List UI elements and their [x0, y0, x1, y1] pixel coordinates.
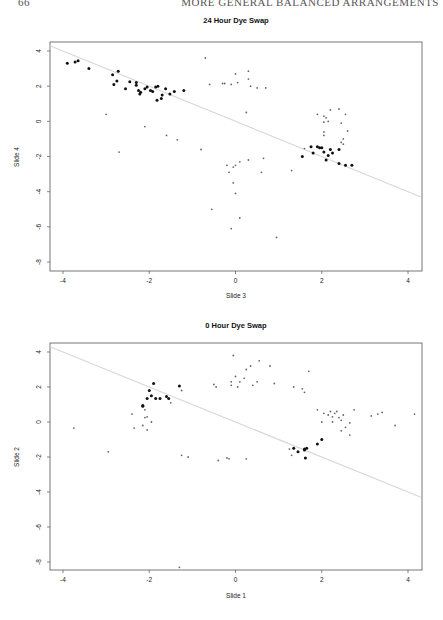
data-point — [176, 139, 178, 141]
data-point — [332, 421, 334, 423]
data-point — [105, 113, 107, 115]
data-point — [146, 86, 149, 89]
data-point — [330, 411, 332, 413]
data-point — [178, 385, 181, 388]
data-point — [228, 458, 230, 460]
data-point — [342, 143, 344, 145]
data-point — [323, 121, 325, 123]
data-point — [248, 70, 250, 72]
data-point — [304, 456, 307, 459]
data-point — [342, 414, 344, 416]
data-point — [146, 416, 148, 418]
y-tick-label: -4 — [35, 188, 42, 194]
data-point — [350, 164, 353, 167]
reference-line — [50, 347, 421, 498]
data-point — [230, 84, 232, 86]
data-point — [237, 82, 239, 84]
data-point — [182, 89, 185, 92]
chart-24-hour-dye-swap: 24 Hour Dye Swap -4-2024 420-2-4-6-8 Sli… — [13, 16, 422, 299]
data-point — [112, 83, 115, 86]
data-point — [200, 149, 202, 151]
data-point — [338, 162, 341, 165]
data-point — [336, 411, 338, 413]
data-point — [232, 182, 234, 184]
data-point — [215, 386, 217, 388]
x-tick-label: 2 — [320, 277, 324, 284]
data-point — [159, 397, 162, 400]
data-point — [150, 394, 153, 397]
data-point — [213, 384, 215, 386]
data-point — [345, 426, 347, 428]
y-tick-label: 4 — [35, 350, 42, 354]
data-point — [276, 237, 278, 239]
data-point — [292, 447, 295, 450]
x-tick-label: 0 — [234, 576, 238, 583]
data-point — [224, 83, 226, 85]
data-point — [297, 450, 300, 453]
x-axis-ticks: -4-2024 — [60, 271, 410, 284]
data-point — [128, 80, 131, 83]
data-points — [66, 57, 354, 238]
data-point — [340, 419, 342, 421]
data-point — [381, 412, 383, 414]
data-point — [332, 416, 334, 418]
data-point — [228, 171, 230, 173]
data-point — [317, 409, 319, 411]
data-point — [320, 146, 323, 149]
data-point — [256, 87, 258, 89]
data-point — [377, 413, 379, 415]
x-tick-label: 0 — [234, 277, 238, 284]
data-point — [173, 90, 176, 93]
data-point — [323, 135, 325, 137]
data-point — [154, 397, 157, 400]
x-tick-label: 4 — [406, 576, 410, 583]
data-point — [340, 122, 342, 124]
x-tick-label: -4 — [60, 277, 66, 284]
data-point — [156, 99, 159, 102]
data-point — [308, 370, 310, 372]
data-point — [320, 438, 323, 441]
data-point — [304, 391, 306, 393]
data-point — [243, 377, 245, 379]
data-point — [323, 115, 325, 117]
x-tick-label: -2 — [146, 277, 152, 284]
y-axis-ticks: 420-2-4-6-8 — [35, 350, 50, 565]
data-point — [117, 70, 120, 73]
data-point — [347, 130, 349, 132]
data-point — [230, 228, 232, 230]
data-point — [345, 113, 347, 115]
x-tick-label: -2 — [146, 576, 152, 583]
data-point — [239, 161, 241, 163]
data-point — [323, 131, 325, 133]
data-point — [293, 386, 295, 388]
data-point — [217, 460, 219, 462]
data-point — [291, 170, 293, 172]
y-tick-label: -2 — [35, 153, 42, 159]
data-point — [353, 409, 355, 411]
y-tick-label: -6 — [35, 524, 42, 530]
data-point — [327, 414, 329, 416]
y-tick-label: 0 — [35, 119, 42, 123]
data-point — [148, 389, 151, 392]
data-point — [237, 386, 239, 388]
y-tick-label: -6 — [35, 224, 42, 230]
data-point — [115, 79, 118, 82]
data-point — [235, 164, 237, 166]
data-point — [340, 142, 342, 144]
data-point — [161, 94, 164, 97]
data-point — [323, 412, 325, 414]
data-point — [301, 388, 303, 390]
data-point — [394, 425, 396, 427]
data-point — [232, 166, 234, 168]
data-point — [325, 117, 327, 119]
data-point — [131, 413, 133, 415]
data-point — [261, 171, 263, 173]
data-point — [74, 60, 77, 63]
data-point — [338, 108, 340, 110]
data-point — [291, 454, 293, 456]
data-point — [325, 159, 328, 162]
data-point — [338, 417, 340, 419]
data-point — [370, 415, 372, 417]
data-point — [239, 217, 241, 219]
x-axis-label: Slide 3 — [226, 292, 246, 299]
